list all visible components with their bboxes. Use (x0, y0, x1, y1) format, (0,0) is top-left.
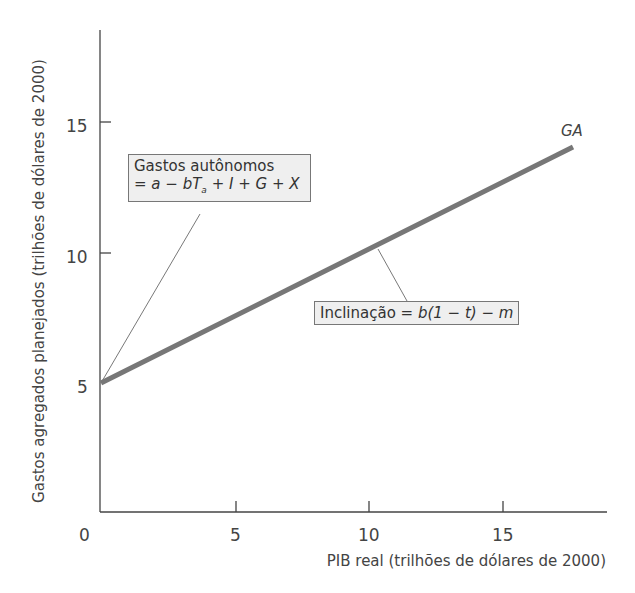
y-tick-label-10: 10 (66, 247, 88, 267)
annotation-slope-formula: b(1 − t) − m (418, 304, 513, 322)
ga-series-label: GA (561, 122, 583, 140)
annotation-slope-label: Inclinação = (320, 304, 418, 322)
annotation-autonomous-formula: = a − bTa + I + G + X (134, 175, 305, 199)
annotation-slope: Inclinação = b(1 − t) − m (314, 301, 519, 325)
x-axis-label: PIB real (trilhões de dólares de 2000) (327, 552, 606, 570)
x-tick-label-10: 10 (358, 525, 380, 545)
annotation-autonomous-title: Gastos autônomos (134, 157, 305, 175)
annotation-autonomous-spending: Gastos autônomos = a − bTa + I + G + X (128, 154, 311, 202)
y-tick-label-5: 5 (77, 377, 88, 397)
y-tick-label-15: 15 (66, 116, 88, 136)
chart-canvas: 15 10 5 0 5 10 15 PIB real (trilhões de … (0, 0, 635, 593)
x-tick-label-0: 0 (79, 525, 90, 545)
y-axis-label: Gastos agregados planejados (trilhões de… (30, 59, 48, 503)
leader-slope (378, 249, 407, 301)
x-tick-label-5: 5 (230, 525, 241, 545)
x-tick-label-15: 15 (492, 525, 514, 545)
